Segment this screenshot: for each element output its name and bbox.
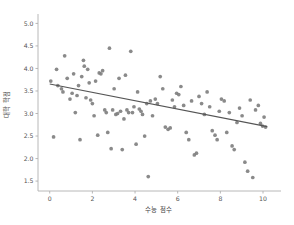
scatter-point (87, 81, 91, 85)
scatter-point (111, 108, 115, 112)
y-tick-label: 2.0 (24, 155, 34, 162)
scatter-point (230, 144, 234, 148)
scatter-point (108, 46, 112, 50)
scatter-point (73, 111, 77, 115)
scatter-point (215, 138, 219, 142)
chart-canvas: 1.52.02.53.03.54.04.55.00246810수능 점수대학 학… (0, 0, 294, 225)
scatter-point (109, 147, 113, 151)
scatter-point (143, 134, 147, 138)
scatter-point (208, 105, 212, 109)
scatter-point (195, 151, 199, 155)
scatter-point (70, 91, 74, 95)
scatter-point (246, 169, 250, 173)
scatter-point (179, 85, 183, 89)
scatter-point (65, 77, 69, 81)
scatter-point (119, 109, 123, 113)
scatter-point (112, 87, 116, 91)
scatter-point (168, 126, 172, 130)
scatter-point (184, 131, 188, 135)
scatter-point (153, 97, 157, 101)
scatter-point (182, 104, 186, 108)
scatter-point (240, 114, 244, 118)
scatter-point (96, 133, 100, 137)
x-tick-label: 6 (176, 195, 180, 202)
scatter-point (139, 109, 143, 113)
scatter-point (200, 102, 204, 106)
scatter-point (49, 79, 53, 83)
scatter-point (243, 160, 247, 164)
y-tick-label: 2.5 (24, 132, 34, 139)
y-tick-label: 4.0 (24, 65, 34, 72)
y-tick-label: 1.5 (24, 177, 34, 184)
regression-line (50, 84, 268, 127)
scatter-point (205, 90, 209, 94)
scatter-point (124, 73, 128, 77)
scatter-point (210, 129, 214, 133)
scatter-point (177, 93, 181, 97)
scatter-point (132, 105, 136, 109)
scatter-point (149, 99, 153, 103)
scatter-point (227, 111, 231, 115)
scatter-point (106, 131, 110, 135)
y-tick-label: 5.0 (24, 20, 34, 27)
scatter-point (120, 148, 124, 152)
scatter-point (213, 133, 217, 137)
scatter-point (86, 68, 90, 72)
scatter-point (187, 138, 191, 142)
scatter-point (248, 98, 252, 102)
scatter-point (146, 175, 150, 179)
scatter-point (262, 115, 266, 119)
scatter-point (127, 111, 131, 115)
scatter-point (63, 54, 67, 58)
scatter-point (68, 97, 72, 101)
scatter-point (82, 59, 86, 63)
scatter-point (171, 98, 175, 102)
scatter-point (222, 99, 226, 103)
scatter-point (89, 98, 93, 102)
scatter-point (122, 117, 126, 121)
scatter-point (256, 104, 260, 108)
scatter-point (158, 75, 162, 79)
scatter-point (94, 79, 98, 83)
scatter-point (75, 94, 79, 98)
y-axis-title: 대학 학점 (2, 91, 11, 117)
scatter-point (117, 77, 121, 81)
scatter-series-students (49, 46, 267, 179)
scatter-point (232, 148, 236, 152)
x-tick-label: 2 (90, 195, 94, 202)
scatter-point (55, 68, 59, 72)
scatter-point (129, 49, 133, 53)
scatter-point (61, 90, 65, 94)
scatter-point (225, 131, 229, 135)
scatter-point (134, 142, 138, 146)
scatter-point (82, 64, 86, 68)
scatter-point (92, 114, 96, 118)
x-tick-label: 10 (259, 195, 267, 202)
scatter-point (254, 108, 258, 112)
scatter-point (238, 106, 242, 110)
scatter-point (197, 95, 201, 99)
scatter-point (72, 72, 76, 76)
y-tick-label: 4.5 (24, 42, 34, 49)
scatter-point (190, 99, 194, 103)
x-tick-label: 4 (133, 195, 137, 202)
scatter-point (99, 72, 103, 76)
scatter-point (217, 109, 221, 113)
scatter-point (91, 102, 95, 106)
scatter-point (77, 84, 81, 88)
scatter-point (141, 113, 145, 117)
scatter-plot-figure: 1.52.02.53.03.54.04.55.00246810수능 점수대학 학… (0, 0, 294, 225)
x-tick-label: 8 (218, 195, 222, 202)
scatter-point (136, 90, 140, 94)
y-tick-label: 3.0 (24, 110, 34, 117)
scatter-point (52, 135, 56, 139)
scatter-point (116, 112, 120, 116)
x-axis-title: 수능 점수 (145, 206, 171, 214)
x-tick-label: 0 (48, 195, 52, 202)
scatter-point (151, 114, 155, 118)
scatter-point (104, 111, 108, 115)
scatter-point (251, 176, 255, 180)
y-tick-label: 3.5 (24, 87, 34, 94)
scatter-point (131, 111, 135, 115)
scatter-point (80, 75, 84, 79)
